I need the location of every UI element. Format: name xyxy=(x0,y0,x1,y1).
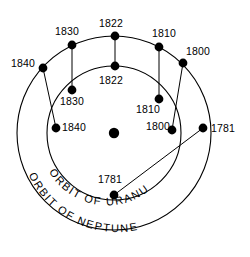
marker-dot-uranus-1840 xyxy=(52,124,61,133)
year-label-neptune-1840: 1840 xyxy=(11,57,35,69)
connector-1800 xyxy=(172,63,183,130)
marker-dot-uranus-1822 xyxy=(111,62,120,71)
marker-dot-neptune-1800 xyxy=(179,59,188,68)
connector-1840 xyxy=(43,68,56,128)
orbit-diagram: 1822 1830 1810 1800 1840 1781 1822 1830 … xyxy=(0,0,250,257)
year-label-uranus-1781: 1781 xyxy=(98,173,122,185)
orbit-diagram-canvas: 1822 1830 1810 1800 1840 1781 1822 1830 … xyxy=(0,0,250,257)
marker-dot-uranus-1830 xyxy=(68,86,77,95)
year-label-uranus-1810: 1810 xyxy=(136,103,160,115)
marker-dot-neptune-1830 xyxy=(68,41,77,50)
year-label-uranus-1822: 1822 xyxy=(99,74,123,86)
year-label-uranus-1840: 1840 xyxy=(62,121,86,133)
connector-1781 xyxy=(114,128,203,195)
year-label-neptune-1822: 1822 xyxy=(99,17,123,29)
year-label-uranus-1830: 1830 xyxy=(60,95,84,107)
year-label-neptune-1830: 1830 xyxy=(55,25,79,37)
marker-dot-neptune-1810 xyxy=(155,43,164,52)
central-sun-dot xyxy=(109,128,119,138)
marker-dot-neptune-1822 xyxy=(111,32,120,41)
marker-dot-neptune-1781 xyxy=(199,124,208,133)
year-label-neptune-1781: 1781 xyxy=(211,122,235,134)
year-label-neptune-1810: 1810 xyxy=(152,27,176,39)
year-label-uranus-1800: 1800 xyxy=(146,120,170,132)
marker-dot-neptune-1840 xyxy=(39,64,48,73)
year-label-neptune-1800: 1800 xyxy=(186,45,210,57)
